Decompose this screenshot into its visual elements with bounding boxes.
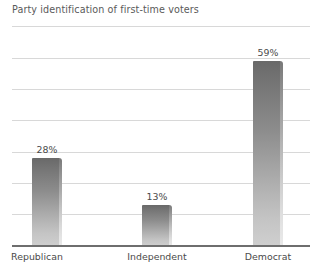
bar-independent[interactable]	[142, 205, 172, 246]
bar-value-democrat: 59%	[238, 47, 298, 58]
bar-chart-figure: Party identification of first-time voter…	[0, 0, 322, 273]
category-label-democrat: Democrat	[213, 251, 322, 262]
category-label-republican: Republican	[0, 251, 92, 262]
chart-title: Party identification of first-time voter…	[12, 4, 199, 15]
plot-area: 28% 13% 59%	[12, 26, 310, 246]
bar-value-independent: 13%	[127, 191, 187, 202]
bar-democrat[interactable]	[253, 61, 283, 246]
bar-republican[interactable]	[32, 158, 62, 246]
category-label-independent: Independent	[102, 251, 212, 262]
gridline	[12, 58, 310, 59]
x-axis-line	[12, 245, 310, 247]
bar-value-republican: 28%	[17, 144, 77, 155]
gridline	[12, 26, 310, 27]
